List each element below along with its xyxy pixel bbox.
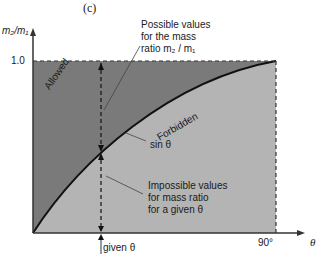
annotation-line: ratio m₂ / m₁	[141, 43, 210, 55]
annotation-line: for a given θ	[148, 204, 227, 216]
panel-label: (c)	[83, 1, 96, 16]
annotation-line: for mass ratio	[148, 192, 227, 204]
given-arrow-icon	[98, 234, 104, 240]
y-tick-label: 1.0	[11, 55, 25, 66]
impossible-values-annotation: Impossible values for mass ratio for a g…	[148, 180, 227, 216]
annotation-line: Impossible values	[148, 180, 227, 192]
y-axis-arrow-icon	[30, 28, 36, 36]
y-axis-label: m₂/m₁	[2, 25, 28, 36]
x-tick-label: 90°	[258, 237, 273, 248]
given-theta-label: given θ	[103, 242, 135, 253]
x-axis-label: θ	[310, 236, 315, 248]
x-axis-arrow-icon	[297, 230, 305, 236]
annotation-line: for the mass	[141, 31, 210, 43]
annotation-line: Possible values	[141, 19, 210, 31]
possible-values-annotation: Possible values for the mass ratio m₂ / …	[141, 19, 210, 55]
